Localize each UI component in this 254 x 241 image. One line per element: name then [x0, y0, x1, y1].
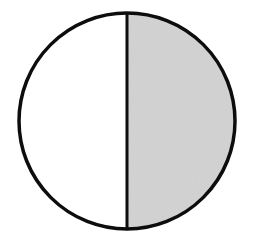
fraction-circle-svg — [0, 0, 254, 241]
fraction-circle-figure — [0, 0, 254, 241]
